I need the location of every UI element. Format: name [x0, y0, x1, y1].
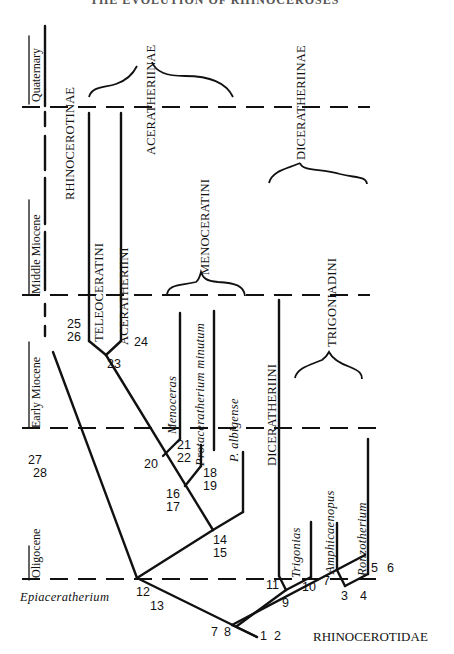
- node-24: 24: [134, 335, 148, 349]
- node-12: 12: [136, 585, 150, 599]
- taxon-menoceras: Menoceras: [165, 376, 179, 435]
- taxon-p-albigense: P. albigense: [227, 398, 241, 463]
- label-trigoniadini: TRIGONIADINI: [325, 258, 339, 347]
- brace-diceratheriinae: [269, 163, 367, 184]
- node-19: 19: [203, 479, 217, 493]
- node-14: 14: [213, 533, 227, 547]
- figure-title-cropped: THE EVOLUTION OF RHINOCEROSES: [90, 0, 339, 7]
- node-28: 28: [33, 466, 47, 480]
- brace-trigoniadini: [295, 352, 362, 379]
- node-10: 10: [302, 580, 316, 594]
- node-9: 9: [282, 596, 289, 610]
- node-7-left: 7: [211, 625, 218, 639]
- taxon-trigonias: Trigonias: [289, 527, 303, 578]
- node-17: 17: [166, 500, 180, 514]
- label-rhinocerotinae: RHINOCEROTINAE: [63, 87, 77, 200]
- node-11: 11: [266, 578, 279, 592]
- label-aceratheriinae: ACERATHERIINAE: [144, 44, 158, 155]
- node-2: 2: [274, 629, 281, 643]
- label-aceratheriini: ACERATHERIINI: [117, 247, 131, 345]
- node-13: 13: [150, 599, 164, 613]
- node-6: 6: [387, 561, 394, 575]
- node-3: 3: [341, 589, 348, 603]
- epoch-label-oligocene: Oligocene: [29, 529, 43, 578]
- node-25: 25: [67, 317, 81, 331]
- node-8: 8: [224, 625, 231, 639]
- node-22: 22: [177, 451, 191, 465]
- taxon-epiaceratherium: Epiaceratherium: [19, 590, 109, 604]
- node-1: 1: [260, 629, 267, 643]
- epoch-label-early-miocene: Early Miocene: [29, 357, 43, 428]
- node-27: 27: [28, 453, 42, 467]
- epoch-label-quaternary: Quaternary: [29, 48, 43, 102]
- label-menoceratini: MENOCERATINI: [198, 179, 212, 275]
- node-4: 4: [360, 589, 367, 603]
- brace-aceratheriinae: [89, 62, 233, 97]
- node-18: 18: [203, 466, 217, 480]
- node-5: 5: [371, 561, 378, 575]
- node-21: 21: [177, 438, 191, 452]
- node-26: 26: [67, 330, 81, 344]
- label-rhinocerotidae: RHINOCEROTIDAE: [313, 629, 428, 644]
- node-16: 16: [166, 487, 180, 501]
- label-diceratheriini: DICERATHERIINI: [265, 364, 279, 466]
- label-diceratheriinae: DICERATHERIINAE: [294, 45, 308, 160]
- node-15: 15: [213, 546, 227, 560]
- label-teleoceratini: TELEOCERATINI: [92, 243, 106, 342]
- cladogram-figure: THE EVOLUTION OF RHINOCEROSES Quaternary…: [0, 0, 454, 654]
- node-7-right: 7: [323, 574, 330, 588]
- time-axis: Quaternary Middle Miocene Early Miocene …: [29, 26, 45, 580]
- taxon-amphicaenopus: Amphicaenopus: [323, 490, 337, 575]
- epoch-label-middle-miocene: Middle Miocene: [29, 214, 43, 294]
- node-23: 23: [107, 357, 121, 371]
- node-20: 20: [144, 457, 158, 471]
